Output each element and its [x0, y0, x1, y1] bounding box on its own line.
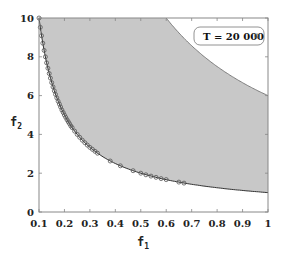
y-tick-label: 8	[27, 51, 34, 62]
pareto-front-chart: 0.10.20.30.40.50.60.70.80.91 0246810 f1 …	[0, 0, 283, 258]
x-tick-label: 0.1	[30, 218, 47, 229]
x-tick-label: 0.7	[183, 218, 200, 229]
x-axis-label: f1	[137, 235, 149, 251]
x-tick-label: 0.2	[56, 218, 73, 229]
y-tick-label: 0	[27, 207, 34, 218]
x-tick-label: 0.4	[107, 218, 124, 229]
y-axis-tick-labels: 0246810	[20, 13, 34, 218]
x-tick-label: 0.8	[208, 218, 225, 229]
x-tick-label: 1	[265, 218, 272, 229]
x-tick-label: 0.6	[158, 218, 175, 229]
y-axis-label: f2	[10, 115, 22, 131]
x-tick-label: 0.5	[132, 218, 149, 229]
x-tick-label: 0.9	[234, 218, 251, 229]
x-tick-label: 0.3	[81, 218, 98, 229]
y-tick-label: 4	[27, 129, 34, 140]
y-tick-label: 2	[27, 168, 34, 179]
legend: T = 20 000	[194, 27, 264, 45]
y-tick-label: 10	[20, 13, 34, 24]
y-tick-label: 6	[27, 90, 34, 101]
x-axis-tick-labels: 0.10.20.30.40.50.60.70.80.91	[30, 218, 271, 229]
